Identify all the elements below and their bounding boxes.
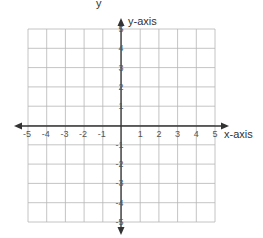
- top-text-fragment: y: [96, 0, 102, 9]
- y-tick-label: -2: [116, 159, 124, 169]
- y-tick-label: 2: [119, 82, 124, 92]
- x-tick-label: -5: [23, 129, 31, 139]
- x-tick-label: -2: [79, 129, 87, 139]
- x-axis-left-arrow-icon: [14, 123, 22, 130]
- coordinate-plane: y y-axis x-axis -5-4-3-2-112345 54321-1-…: [0, 0, 263, 238]
- x-tick-label: -4: [42, 129, 50, 139]
- x-tick-label: 5: [213, 129, 218, 139]
- y-tick-label: -3: [116, 178, 124, 188]
- y-axis-down-arrow-icon: [118, 227, 125, 235]
- x-tick-label: 3: [175, 129, 180, 139]
- y-tick-label: 1: [119, 101, 124, 111]
- y-tick-label: 4: [119, 43, 124, 53]
- x-tick-label: 1: [138, 129, 143, 139]
- y-tick-label: -4: [116, 198, 124, 208]
- x-tick-label: 2: [156, 129, 161, 139]
- x-tick-labels: -5-4-3-2-112345: [23, 129, 218, 139]
- y-tick-label: -1: [116, 140, 124, 150]
- x-tick-label: -3: [60, 129, 68, 139]
- x-tick-label: -1: [98, 129, 106, 139]
- x-tick-label: 4: [194, 129, 199, 139]
- y-tick-label: 5: [119, 24, 124, 34]
- x-axis-label: x-axis: [224, 128, 253, 140]
- y-axis-label: y-axis: [128, 15, 157, 27]
- y-tick-label: 3: [119, 63, 124, 73]
- y-tick-label: -5: [116, 217, 124, 227]
